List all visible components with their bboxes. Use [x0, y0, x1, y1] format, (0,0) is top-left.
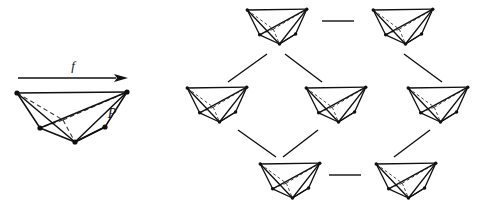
lattice-node-top-right-vertex-tl — [372, 8, 375, 11]
lattice-node-top-right-vertex-bl — [384, 33, 387, 36]
lattice-node-top-left-vertex-br — [294, 32, 297, 35]
lattice-node-top-left-edge-0 — [247, 9, 307, 10]
polytope-P-edge-0 — [17, 92, 127, 93]
lattice-node-bottom-left-vertex-tr — [318, 162, 321, 165]
lattice-node-mid-left-vertex-bc — [218, 120, 221, 123]
lattice-node-bottom-right-vertex-br — [423, 186, 426, 189]
lattice-node-bottom-right-vertex-tl — [375, 162, 378, 165]
lattice-node-top-right-vertex-br — [420, 32, 423, 35]
lattice-node-mid-center-vertex-tl — [305, 86, 308, 89]
lattice-node-mid-center-vertex-br — [353, 110, 356, 113]
lattice-node-mid-right-vertex-bc — [439, 120, 442, 123]
polytope-lattice-figure: f P — [0, 0, 493, 212]
lattice-node-mid-right-vertex-bl — [419, 111, 422, 114]
lattice-node-mid-left-vertex-bl — [198, 111, 201, 114]
lattice-node-bottom-right-vertex-tr — [434, 162, 437, 165]
lattice-node-mid-right-edge-0 — [408, 87, 468, 88]
lattice-node-bottom-right-edge-0 — [376, 163, 436, 164]
lattice-node-bottom-right-vertex-bc — [407, 196, 410, 199]
lattice-node-mid-right-vertex-tr — [466, 86, 469, 89]
lattice-node-bottom-left-vertex-br — [307, 186, 310, 189]
lattice-node-bottom-left-vertex-tl — [259, 162, 262, 165]
lattice-node-bottom-left-vertex-bc — [291, 196, 294, 199]
lattice-node-top-left-vertex-tr — [305, 8, 308, 11]
figure-root: f P — [0, 0, 493, 212]
lattice-node-mid-left-vertex-tl — [186, 86, 189, 89]
polytope-P-vertex-bl — [37, 125, 42, 130]
polytope-P-vertex-tr — [124, 89, 129, 94]
lattice-node-top-right-vertex-bc — [404, 42, 407, 45]
lattice-node-bottom-left-edge-0 — [260, 163, 320, 164]
lattice-node-top-right-vertex-tr — [431, 8, 434, 11]
lattice-node-mid-center-vertex-bc — [337, 120, 340, 123]
lattice-node-bottom-left-vertex-bl — [271, 187, 274, 190]
lattice-node-mid-center-edge-0 — [306, 87, 366, 88]
lattice-node-top-left-vertex-bc — [278, 42, 281, 45]
lattice-node-mid-right-vertex-tl — [407, 86, 410, 89]
lattice-node-top-right-edge-0 — [373, 9, 433, 10]
background — [0, 0, 493, 212]
lattice-node-mid-center-vertex-bl — [317, 111, 320, 114]
lattice-node-mid-left-edge-0 — [187, 87, 247, 88]
lattice-node-top-left-vertex-bl — [258, 33, 261, 36]
lattice-node-mid-left-vertex-br — [234, 110, 237, 113]
polytope-label-P: P — [107, 106, 117, 121]
polytope-P-vertex-bc — [72, 139, 77, 144]
lattice-node-mid-left-vertex-tr — [245, 86, 248, 89]
lattice-node-bottom-right-vertex-bl — [387, 187, 390, 190]
lattice-node-mid-right-vertex-br — [455, 110, 458, 113]
lattice-node-mid-center-vertex-tr — [364, 86, 367, 89]
polytope-P-vertex-br — [102, 124, 107, 129]
polytope-P-vertex-tl — [14, 90, 19, 95]
lattice-node-top-left-vertex-tl — [246, 8, 249, 11]
